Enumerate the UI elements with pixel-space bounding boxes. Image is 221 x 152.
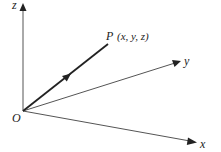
z-axis: z: [11, 0, 27, 111]
x-axis-arrowhead-icon: [187, 138, 197, 146]
z-axis-arrowhead-icon: [20, 3, 27, 11]
coordinate-diagram: z y x O P (x, y, z): [0, 0, 221, 152]
z-axis-label: z: [11, 0, 17, 12]
point-p-label: P (x, y, z): [105, 29, 149, 43]
x-axis: x: [23, 111, 206, 151]
origin-label: O: [12, 111, 21, 125]
point-p-coordinates: (x, y, z): [117, 30, 149, 43]
y-axis-arrowhead-icon: [172, 60, 181, 67]
position-vector-op: [23, 44, 108, 111]
y-axis: y: [23, 54, 190, 111]
x-axis-label: x: [199, 137, 206, 151]
y-axis-label: y: [183, 54, 190, 68]
point-p-name: P: [105, 29, 114, 43]
